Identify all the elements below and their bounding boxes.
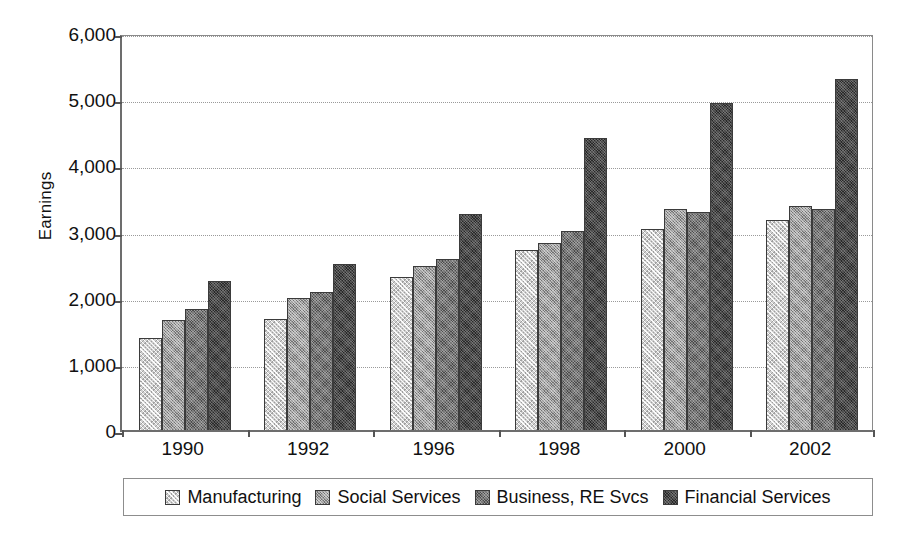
legend-label-manufacturing: Manufacturing	[187, 487, 301, 508]
legend-entry-financial-services[interactable]: Financial Services	[663, 487, 831, 508]
y-tick-label-6000: 6,000	[44, 24, 116, 46]
bar-2002-financial-services	[835, 79, 858, 430]
bar-1990-manufacturing	[139, 338, 162, 430]
bar-1998-business-re-svcs	[561, 231, 584, 430]
bar-1990-social-services	[162, 320, 185, 430]
x-tick-label-1992: 1992	[287, 438, 329, 460]
bar-2002-business-re-svcs	[812, 209, 835, 430]
plot-area	[120, 35, 873, 432]
legend-label-financial-services: Financial Services	[685, 487, 831, 508]
legend-label-business-re-svcs: Business, RE Svcs	[497, 487, 649, 508]
bar-group-1996	[390, 36, 482, 430]
y-tick-mark-3000	[115, 235, 122, 237]
x-tick-label-2002: 2002	[789, 438, 831, 460]
bar-group-2000	[641, 36, 733, 430]
y-tick-mark-1000	[115, 367, 122, 369]
bar-1992-social-services	[287, 298, 310, 430]
x-axis-tick-labels: 199019921996199820002002	[120, 438, 873, 464]
x-tick-mark-1	[248, 430, 250, 437]
x-tick-label-1996: 1996	[413, 438, 455, 460]
bar-1998-social-services	[538, 243, 561, 430]
bar-series-container	[122, 36, 872, 430]
x-tick-label-1990: 1990	[162, 438, 204, 460]
bar-1992-manufacturing	[264, 319, 287, 430]
legend-swatch-manufacturing	[165, 490, 180, 505]
bar-2002-social-services	[789, 206, 812, 430]
x-tick-mark-6	[873, 430, 875, 437]
bar-1998-manufacturing	[515, 250, 538, 430]
y-tick-mark-6000	[115, 36, 122, 38]
x-tick-label-1998: 1998	[538, 438, 580, 460]
bar-group-1992	[264, 36, 356, 430]
y-tick-mark-2000	[115, 301, 122, 303]
bar-2000-financial-services	[710, 103, 733, 430]
bar-1996-manufacturing	[390, 277, 413, 430]
x-tick-label-2000: 2000	[664, 438, 706, 460]
y-tick-label-2000: 2,000	[44, 289, 116, 311]
bar-group-1998	[515, 36, 607, 430]
legend-label-social-services: Social Services	[337, 487, 460, 508]
bar-2000-business-re-svcs	[687, 212, 710, 430]
chart-legend: ManufacturingSocial ServicesBusiness, RE…	[123, 478, 873, 516]
y-tick-label-4000: 4,000	[44, 156, 116, 178]
x-tick-mark-5	[750, 430, 752, 437]
bar-group-2002	[766, 36, 858, 430]
bar-1996-social-services	[413, 266, 436, 430]
legend-swatch-business-re-svcs	[475, 490, 490, 505]
bar-1996-business-re-svcs	[436, 259, 459, 430]
x-tick-mark-4	[624, 430, 626, 437]
legend-entry-business-re-svcs[interactable]: Business, RE Svcs	[475, 487, 649, 508]
bar-1990-financial-services	[208, 281, 231, 430]
x-tick-mark-0	[122, 430, 124, 437]
bar-2002-manufacturing	[766, 220, 789, 430]
legend-entry-social-services[interactable]: Social Services	[315, 487, 460, 508]
bar-1992-financial-services	[333, 264, 356, 430]
x-tick-mark-2	[373, 430, 375, 437]
y-tick-label-3000: 3,000	[44, 223, 116, 245]
bar-1998-financial-services	[584, 138, 607, 430]
x-tick-mark-3	[499, 430, 501, 437]
y-tick-mark-5000	[115, 102, 122, 104]
y-tick-label-1000: 1,000	[44, 355, 116, 377]
bar-1996-financial-services	[459, 214, 482, 430]
bar-2000-manufacturing	[641, 229, 664, 430]
bar-2000-social-services	[664, 209, 687, 430]
y-tick-label-5000: 5,000	[44, 90, 116, 112]
y-tick-mark-4000	[115, 168, 122, 170]
y-tick-label-0: 0	[44, 421, 116, 443]
legend-swatch-social-services	[315, 490, 330, 505]
legend-entry-manufacturing[interactable]: Manufacturing	[165, 487, 301, 508]
y-tick-mark-0	[115, 433, 122, 435]
bar-1992-business-re-svcs	[310, 292, 333, 430]
bar-1990-business-re-svcs	[185, 309, 208, 430]
bar-group-1990	[139, 36, 231, 430]
legend-swatch-financial-services	[663, 490, 678, 505]
y-axis-tick-labels: 01,0002,0003,0004,0005,0006,000	[38, 0, 116, 552]
bar-chart: Earnings 01,0002,0003,0004,0005,0006,000…	[0, 0, 907, 552]
